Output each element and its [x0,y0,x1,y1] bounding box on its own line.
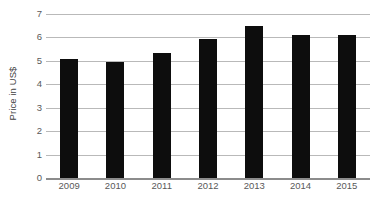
x-tick-label-2014: 2014 [290,180,311,191]
y-tick-label-3: 3 [22,103,42,113]
bar-2011 [153,53,171,178]
bar-slot [46,14,92,178]
bar-chart: Price in US$ 01234567 200920102011201220… [0,0,386,207]
y-tick-label-5: 5 [22,56,42,66]
x-tick-label-2012: 2012 [197,180,218,191]
bar-2009 [60,59,78,178]
x-tick-label-2009: 2009 [59,180,80,191]
bar-slot [277,14,323,178]
bar-slot [231,14,277,178]
x-tick-label-2013: 2013 [244,180,265,191]
bar-slot [324,14,370,178]
y-tick-label-4: 4 [22,80,42,90]
bar-2014 [292,35,310,178]
y-axis-title: Price in US$ [2,0,22,186]
bar-slot [185,14,231,178]
y-tick-label-6: 6 [22,33,42,43]
bars [46,14,370,178]
y-tick-label-7: 7 [22,9,42,19]
y-tick-label-2: 2 [22,126,42,136]
y-tick-label-1: 1 [22,150,42,160]
bar-2013 [245,26,263,178]
bar-slot [139,14,185,178]
x-axis-tick-labels: 2009201020112012201320142015 [46,180,370,200]
x-tick-label-2010: 2010 [105,180,126,191]
bar-slot [92,14,138,178]
bar-2010 [106,62,124,178]
plot-area [46,14,370,178]
y-axis-title-text: Price in US$ [7,66,18,120]
bar-2012 [199,39,217,178]
y-axis-tick-labels: 01234567 [22,0,42,207]
x-tick-label-2011: 2011 [151,180,171,191]
y-tick-label-0: 0 [22,173,42,183]
bar-2015 [338,35,356,178]
x-tick-label-2015: 2015 [336,180,357,191]
